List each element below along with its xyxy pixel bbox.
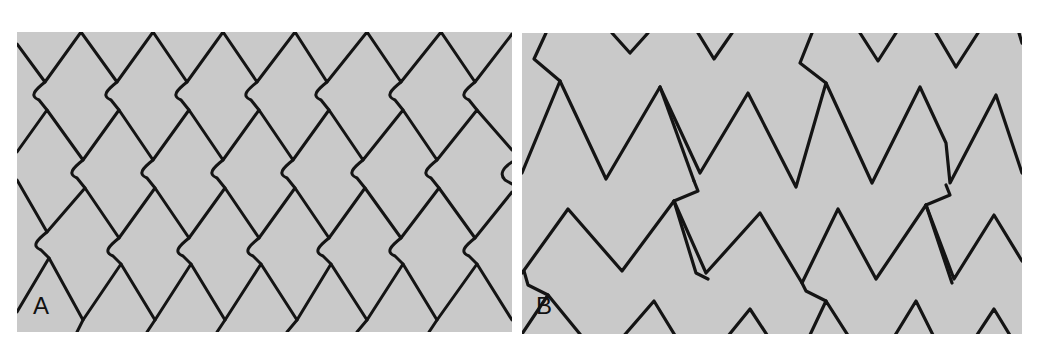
stent-zigzag-pattern [522,33,1022,334]
stent-diamond-pattern [17,32,512,332]
panel-a: A [17,32,512,332]
panel-b: B [522,33,1022,334]
panel-label-a: A [33,294,49,318]
panel-label-b: B [536,294,552,318]
